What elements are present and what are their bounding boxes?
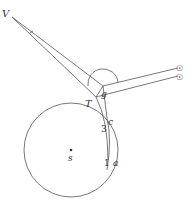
label-g: g [101, 89, 107, 99]
line-g-to-sun-upper [103, 68, 178, 86]
sun-lower-icon: ☉ [176, 73, 183, 82]
center-point-s [70, 149, 73, 152]
label-v: V [2, 8, 11, 19]
label-1: 1 [104, 158, 110, 168]
label-s: s [68, 153, 73, 163]
label-t: T [85, 98, 93, 109]
ray-v-to-t [12, 17, 96, 97]
label-c: c [108, 117, 113, 127]
sun-upper-icon: ☉ [176, 64, 183, 73]
label-a: a [113, 158, 118, 168]
label-3: 3 [101, 124, 107, 134]
line-t-to-sun-lower [96, 76, 178, 97]
ray-v-to-g [12, 17, 103, 86]
geometry-diagram: V g T c 3 s 1 a ☉ ☉ [0, 0, 191, 203]
